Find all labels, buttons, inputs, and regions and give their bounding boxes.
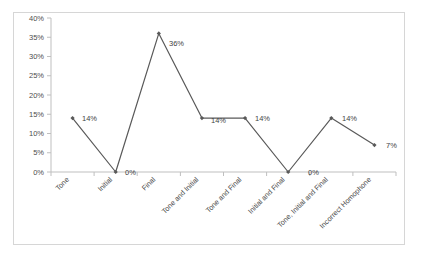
y-tick-label: 10% (29, 129, 44, 138)
data-label: 14% (342, 114, 357, 123)
line-chart: 0% 5% 10% 15% 20% 25% 30% 35% 40% (14, 13, 404, 244)
y-tick-label: 35% (29, 33, 44, 42)
y-tick-label: 40% (29, 14, 44, 23)
y-tick-label: 25% (29, 71, 44, 80)
data-label: 36% (169, 39, 184, 48)
y-tick-label: 5% (33, 148, 44, 157)
y-tick-label: 15% (29, 110, 44, 119)
y-tick-label: 30% (29, 52, 44, 61)
y-tick-label: 20% (29, 91, 44, 100)
data-label: 0% (125, 168, 136, 177)
data-label: 7% (386, 141, 397, 150)
y-tick-label: 0% (33, 168, 44, 177)
chart-frame: 0% 5% 10% 15% 20% 25% 30% 35% 40% (13, 12, 405, 245)
data-label: 14% (82, 114, 97, 123)
data-label: 14% (255, 114, 270, 123)
data-label: 0% (308, 168, 319, 177)
data-label: 14% (211, 116, 226, 125)
